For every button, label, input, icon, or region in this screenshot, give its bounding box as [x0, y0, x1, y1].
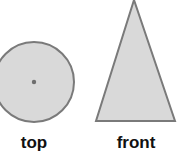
front-view-triangle — [96, 0, 175, 121]
center-point-dot — [32, 80, 36, 84]
views-diagram — [0, 0, 188, 154]
front-view-label: front — [104, 133, 168, 153]
top-view-label: top — [4, 133, 64, 153]
top-view-circle — [0, 42, 74, 122]
